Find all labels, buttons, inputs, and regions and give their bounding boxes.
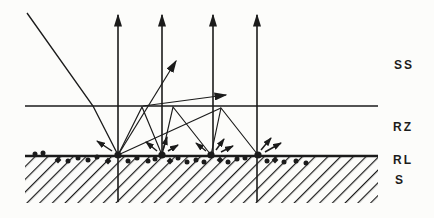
surface-particle-dot [126,159,131,164]
surface-particle-dot [86,158,91,163]
surface-particle-dot [243,156,248,161]
sputter-arrow [265,143,281,152]
impact-dot [254,151,261,158]
escape-arrow [118,61,176,155]
sputter-arrow [168,145,178,151]
diagram-canvas [0,0,434,218]
sputter-arrow [146,142,157,151]
surface-particle-dot [294,159,299,164]
impact-dot [207,151,214,158]
surface-particle-dot [226,160,231,165]
surface-particle-dot [194,158,199,163]
impact-dot [158,151,165,158]
surface-particle-dot [176,156,181,161]
sputter-arrow [216,139,224,150]
surface-particle-dot [76,156,81,161]
surface-particle-dot [153,157,158,162]
surface-particle-dot [282,160,287,165]
sputter-arrow [97,141,112,151]
incident-beam-line [27,13,118,155]
figure: SS RZ RL S [0,0,434,218]
surface-particle-dot [235,157,240,162]
surface-particle-dot [202,160,207,165]
sputter-arrow [221,146,233,152]
impact-dot [114,151,121,158]
region-label-rl: RL [393,153,413,167]
region-label-rz: RZ [393,120,413,134]
region-label-s: S [395,173,405,187]
surface-particle-dot [265,159,270,164]
surface-particle-dot [66,159,71,164]
surface-particle-dot [33,152,38,157]
region-label-ss: SS [394,58,414,72]
surface-particle-dot [95,155,100,160]
surface-particle-dot [41,151,46,156]
surface-particle-dot [146,159,151,164]
bounce-path [118,107,162,155]
sputter-arrow [261,138,271,150]
surface-particle-dot [304,161,309,166]
substrate-hatch [25,157,378,203]
surface-particle-dot [135,156,140,161]
surface-particle-dot [185,160,190,165]
sputter-arrow [163,137,167,150]
